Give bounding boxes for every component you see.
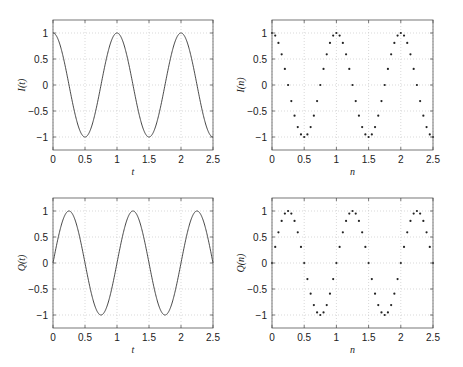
sample-point (387, 311, 389, 313)
x-tick-label: 2.5 (426, 154, 440, 165)
sample-point (403, 246, 405, 248)
x-tick-label: 1.5 (362, 332, 376, 343)
sample-point (384, 84, 386, 86)
y-axis-label: I(n) (235, 77, 247, 94)
sample-point (355, 213, 357, 215)
x-tick-label: 0 (50, 154, 56, 165)
sample-point (329, 42, 331, 44)
sample-point (416, 210, 418, 212)
sample-point (413, 68, 415, 70)
sample-points (271, 32, 434, 138)
sample-point (297, 231, 299, 233)
sample-point (351, 84, 353, 86)
sample-point (332, 278, 334, 280)
x-tick-label: 0.5 (78, 154, 92, 165)
y-tick-label: 0 (42, 80, 48, 91)
x-axis-label: t (132, 166, 135, 177)
sample-point (310, 293, 312, 295)
panel-I-n: 00.511.522.510.50−0.5−1nI(n) (235, 20, 440, 177)
x-tick-label: 2.5 (206, 332, 220, 343)
x-tick-label: 1 (334, 154, 340, 165)
x-tick-label: 0.5 (297, 332, 311, 343)
sample-point (319, 314, 321, 316)
x-tick-label: 1.5 (142, 154, 156, 165)
sample-point (377, 115, 379, 117)
sample-point (303, 136, 305, 138)
sample-point (422, 115, 424, 117)
y-tick-label: 0.5 (253, 54, 267, 65)
sample-point (400, 32, 402, 34)
sample-point (306, 278, 308, 280)
y-tick-label: −0.5 (28, 106, 48, 117)
y-axis-label: Q(n) (235, 253, 247, 273)
sample-point (419, 100, 421, 102)
sample-point (277, 231, 279, 233)
x-tick-label: 1.5 (362, 154, 376, 165)
y-tick-label: −1 (256, 132, 268, 143)
sample-point (409, 220, 411, 222)
x-tick-label: 1 (114, 154, 120, 165)
sample-point (390, 53, 392, 55)
sample-point (406, 42, 408, 44)
sample-point (422, 220, 424, 222)
x-axis-label: n (350, 344, 355, 355)
sample-point (313, 304, 315, 306)
x-tick-label: 1 (114, 332, 120, 343)
x-tick-label: 1.5 (142, 332, 156, 343)
sample-point (287, 84, 289, 86)
x-tick-label: 2 (398, 332, 404, 343)
x-tick-label: 0 (50, 332, 56, 343)
sample-point (403, 35, 405, 37)
x-tick-label: 0 (269, 332, 275, 343)
sample-point (345, 53, 347, 55)
y-axis-label: I(t) (16, 78, 28, 92)
x-tick-label: 2.5 (206, 154, 220, 165)
sample-point (390, 304, 392, 306)
sample-points (271, 210, 434, 316)
sample-point (368, 136, 370, 138)
sample-point (332, 35, 334, 37)
sample-point (348, 213, 350, 215)
y-tick-label: 1 (261, 206, 267, 217)
sample-point (326, 53, 328, 55)
y-tick-label: 0 (261, 258, 267, 269)
sample-point (364, 133, 366, 135)
x-axis-label: n (350, 166, 355, 177)
sample-point (329, 293, 331, 295)
sample-point (322, 68, 324, 70)
y-tick-label: −1 (37, 310, 49, 321)
sample-point (396, 278, 398, 280)
sample-point (342, 231, 344, 233)
sample-point (393, 293, 395, 295)
sample-point (351, 210, 353, 212)
sample-point (281, 53, 283, 55)
y-tick-label: −1 (256, 310, 268, 321)
sample-point (377, 304, 379, 306)
sample-point (326, 304, 328, 306)
sample-point (371, 133, 373, 135)
sample-point (406, 231, 408, 233)
sample-point (355, 100, 357, 102)
y-tick-label: −1 (37, 132, 49, 143)
sample-point (348, 68, 350, 70)
sample-point (300, 133, 302, 135)
sample-point (287, 210, 289, 212)
x-tick-label: 2 (398, 154, 404, 165)
sample-point (419, 213, 421, 215)
sample-point (374, 126, 376, 128)
sample-point (345, 220, 347, 222)
sample-point (281, 220, 283, 222)
sample-point (274, 35, 276, 37)
sample-point (361, 231, 363, 233)
x-axis-label: t (132, 344, 135, 355)
panel-I-t: 00.511.522.510.50−0.5−1tI(t) (16, 20, 220, 177)
sample-point (400, 262, 402, 264)
sample-point (393, 42, 395, 44)
y-axis-label: Q(t) (16, 254, 28, 271)
sample-point (335, 262, 337, 264)
sample-point (274, 246, 276, 248)
y-tick-label: 0 (261, 80, 267, 91)
sample-point (416, 84, 418, 86)
sample-point (303, 262, 305, 264)
grid (53, 198, 213, 328)
